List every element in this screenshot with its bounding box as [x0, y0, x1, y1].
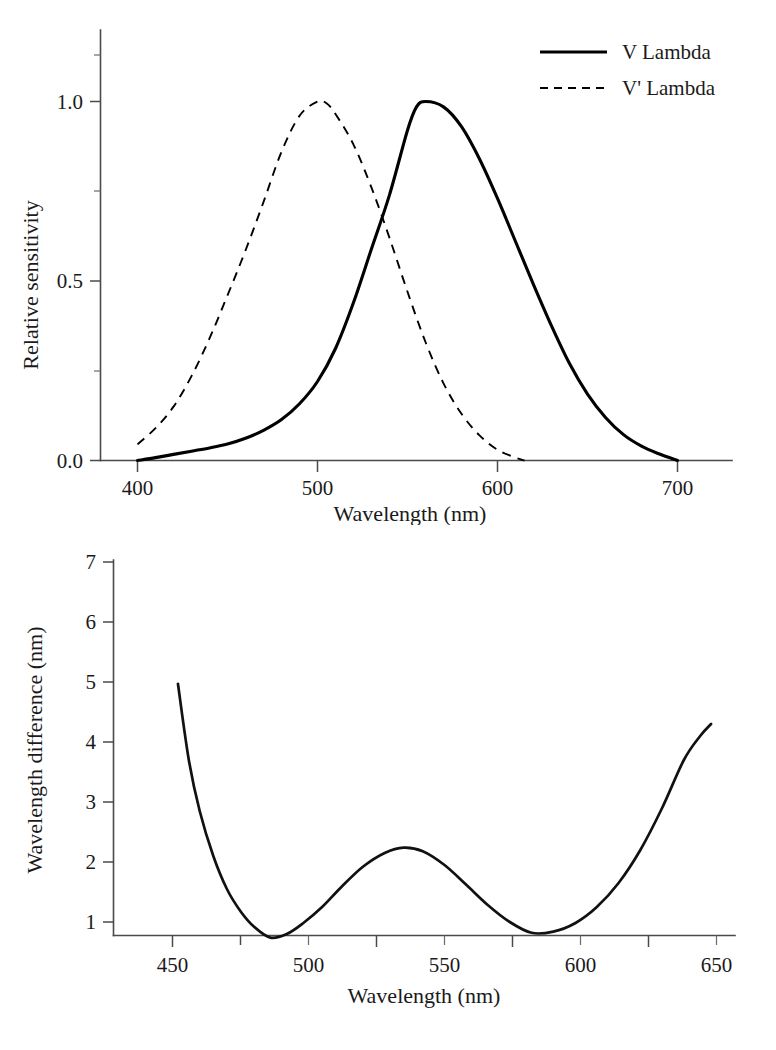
y-tick-label-6: 6 [86, 610, 97, 634]
y-tick-label-0.5: 0.5 [57, 269, 83, 293]
legend-label-v-prime-lambda: V' Lambda [622, 76, 716, 100]
x-tick-label-650: 650 [701, 953, 733, 977]
y-tick-label-3: 3 [86, 790, 97, 814]
series-line-v-lambda [138, 102, 678, 461]
y-axis-title: Wavelength difference (nm) [22, 626, 47, 873]
figure-container: 1.0 0.5 0.0 Relative sensitivity 400 500… [0, 0, 776, 1050]
legend-label-v-lambda: V Lambda [622, 40, 712, 64]
x-tick-label-550: 550 [429, 953, 461, 977]
x-tick-label-400: 400 [122, 476, 154, 500]
y-tick-label-1.0: 1.0 [57, 90, 83, 114]
y-axis-ticks [103, 562, 114, 922]
y-tick-label-1: 1 [86, 910, 97, 934]
x-tick-label-500: 500 [302, 476, 334, 500]
luminous-efficiency-svg: 1.0 0.5 0.0 Relative sensitivity 400 500… [0, 0, 776, 525]
y-tick-label-4: 4 [86, 730, 97, 754]
chart-luminous-efficiency: 1.0 0.5 0.0 Relative sensitivity 400 500… [0, 0, 776, 525]
series-line-wavelength-difference [178, 684, 711, 938]
x-axis-title: Wavelength (nm) [348, 983, 501, 1008]
wavelength-difference-svg: 7 6 5 4 3 2 1 Wavelength difference (nm) [0, 525, 776, 1050]
y-tick-label-7: 7 [86, 550, 97, 574]
x-axis-ticks [138, 461, 678, 473]
y-axis-title: Relative sensitivity [18, 200, 43, 369]
x-axis-ticks [173, 936, 717, 948]
y-axis-ticks [90, 55, 101, 461]
y-tick-label-2: 2 [86, 850, 97, 874]
legend: V Lambda V' Lambda [540, 40, 716, 100]
x-tick-label-600: 600 [565, 953, 597, 977]
chart-wavelength-difference: 7 6 5 4 3 2 1 Wavelength difference (nm) [0, 525, 776, 1050]
y-tick-label-5: 5 [86, 670, 97, 694]
x-tick-label-600: 600 [482, 476, 514, 500]
series-line-v-prime-lambda [138, 101, 525, 461]
x-tick-label-700: 700 [662, 476, 694, 500]
x-axis-title: Wavelength (nm) [334, 501, 487, 525]
x-tick-label-450: 450 [157, 953, 189, 977]
x-tick-label-500: 500 [293, 953, 325, 977]
y-tick-label-0.0: 0.0 [57, 449, 83, 473]
